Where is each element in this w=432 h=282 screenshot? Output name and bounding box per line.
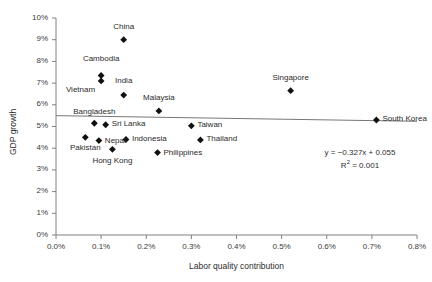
data-point-marker: [102, 121, 109, 128]
data-point-marker: [287, 87, 294, 94]
x-tick-label: 0.7%: [350, 242, 394, 251]
data-point-label: Pakistan: [25, 143, 145, 152]
data-point-marker: [373, 117, 380, 124]
data-point-label: Philippines: [164, 148, 203, 157]
trendline: [56, 116, 417, 122]
x-tick-label: 0.5%: [260, 242, 304, 251]
y-tick-label: 9%: [12, 34, 48, 43]
data-point-marker: [82, 134, 89, 141]
data-point-label: Indonesia: [132, 134, 167, 143]
data-point-label: Cambodia: [41, 54, 161, 63]
data-point-label: Malaysia: [99, 93, 219, 102]
data-point-label: Sri Lanka: [112, 119, 146, 128]
data-point-label: Nepal: [105, 136, 126, 145]
trendline-path: [56, 116, 417, 122]
data-point-marker: [197, 137, 204, 144]
data-point-label: South Korea: [382, 114, 426, 123]
r2-value: = 0.001: [350, 161, 379, 170]
x-tick-label: 0.6%: [305, 242, 349, 251]
x-tick-label: 0.3%: [169, 242, 213, 251]
x-axis-title: Labor quality contribution: [157, 261, 317, 271]
tick-marks: [52, 18, 417, 239]
x-tick-label: 0.0%: [34, 242, 78, 251]
y-tick-label: 0%: [12, 230, 48, 239]
data-point-label: Singapore: [231, 73, 351, 82]
data-point-label: China: [64, 22, 184, 31]
scatter-chart: 0%1%2%3%4%5%6%7%8%9%10% 0.0%0.1%0.2%0.3%…: [0, 0, 432, 282]
axes: [56, 18, 417, 235]
data-point-marker: [120, 36, 127, 43]
data-point-label: Thailand: [206, 134, 237, 143]
data-point-marker: [188, 122, 195, 129]
x-tick-label: 0.1%: [79, 242, 123, 251]
data-point-label: Bangladesh: [34, 107, 154, 116]
y-tick-label: 1%: [12, 208, 48, 217]
data-point-marker: [91, 120, 98, 127]
y-tick-label: 3%: [12, 164, 48, 173]
data-point-label: Taiwan: [197, 120, 222, 129]
trendline-equation: y = −0.327x + 0.055: [300, 148, 420, 157]
y-tick-label: 10%: [12, 13, 48, 22]
data-point-marker: [155, 107, 162, 114]
trendline-r-squared: R2 = 0.001: [300, 159, 420, 170]
x-tick-label: 0.4%: [215, 242, 259, 251]
x-tick-label: 0.2%: [124, 242, 168, 251]
x-tick-label: 0.8%: [395, 242, 432, 251]
data-point-label: Hong Kong: [52, 156, 172, 165]
data-point-label: Vietnam: [0, 85, 95, 94]
y-axis-title: GDP growth: [8, 108, 18, 154]
data-point-label: India: [64, 76, 184, 85]
y-tick-label: 2%: [12, 186, 48, 195]
